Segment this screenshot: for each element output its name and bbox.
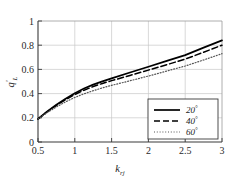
y-tick-label: 0.2 [22,112,35,123]
y-tick-label: 0.8 [22,40,35,51]
y-tick-label: 0.4 [22,88,35,99]
chart-svg: 0.511.522.53 00.20.40.60.81 krj q′L 20°4… [0,0,235,187]
x-tick-label: 2.5 [179,145,192,156]
x-tick-label: 1.5 [105,145,118,156]
x-tick-label: 1 [72,145,77,156]
chart-legend: 20°40°60° [148,99,218,139]
y-tick-label: 0 [29,137,34,148]
y-tick-label: 0.6 [22,64,35,75]
chart-figure: 0.511.522.53 00.20.40.60.81 krj q′L 20°4… [0,0,235,187]
legend-box [148,99,218,139]
x-tick-label: 3 [220,145,225,156]
y-tick-label: 1 [29,16,34,27]
x-tick-label: 2 [146,145,151,156]
